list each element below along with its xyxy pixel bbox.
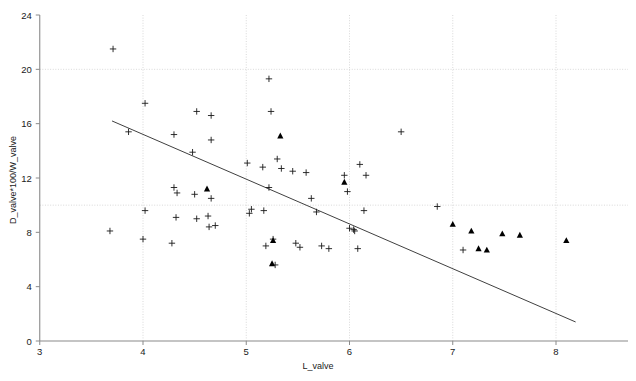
- data-point-cross: [460, 247, 466, 253]
- y-tick-label: 4: [26, 281, 31, 292]
- data-point-triangle: [204, 186, 210, 192]
- data-point-cross: [263, 243, 269, 249]
- data-point-cross: [434, 203, 440, 209]
- axis-ticks: 04812162024345678: [21, 10, 558, 358]
- data-point-triangle: [341, 179, 347, 185]
- data-point-cross: [205, 213, 211, 219]
- data-point-cross: [341, 172, 347, 178]
- data-point-triangle: [563, 237, 569, 243]
- data-point-cross: [140, 236, 146, 242]
- data-point-cross: [169, 240, 175, 246]
- y-tick-label: 20: [21, 64, 32, 75]
- data-point-triangle: [499, 230, 505, 236]
- gridlines: [40, 15, 628, 341]
- data-point-cross: [350, 226, 356, 232]
- data-point-cross: [290, 168, 296, 174]
- data-point-cross: [208, 137, 214, 143]
- data-point-cross: [107, 228, 113, 234]
- data-point-cross: [303, 169, 309, 175]
- data-point-cross: [318, 243, 324, 249]
- y-tick-label: 16: [21, 118, 32, 129]
- y-tick-label: 24: [21, 10, 32, 21]
- data-point-cross: [193, 216, 199, 222]
- data-point-cross: [357, 161, 363, 167]
- trendline: [112, 121, 576, 322]
- x-axis-title: L_valve: [302, 361, 333, 371]
- data-point-cross: [171, 131, 177, 137]
- data-point-cross: [266, 76, 272, 82]
- data-point-triangle: [468, 228, 474, 234]
- y-tick-label: 12: [21, 173, 32, 184]
- x-tick-label: 3: [37, 346, 42, 357]
- data-point-cross: [326, 245, 332, 251]
- data-point-cross: [346, 225, 352, 231]
- axes: [40, 15, 628, 341]
- data-point-cross: [355, 245, 361, 251]
- data-point-triangle: [517, 232, 523, 238]
- data-point-cross: [260, 164, 266, 170]
- data-point-cross: [193, 108, 199, 114]
- data-point-cross: [398, 129, 404, 135]
- data-point-triangle: [270, 237, 276, 243]
- data-point-cross: [361, 207, 367, 213]
- plot-canvas: 04812162024345678 L_valve D_valve*100/W_…: [0, 0, 636, 381]
- data-point-cross: [208, 112, 214, 118]
- y-tick-label: 8: [26, 227, 31, 238]
- data-point-cross: [261, 207, 267, 213]
- data-point-cross: [174, 190, 180, 196]
- data-point-cross: [297, 244, 303, 250]
- data-point-cross: [244, 160, 250, 166]
- data-point-triangle: [475, 245, 481, 251]
- x-tick-label: 6: [347, 346, 352, 357]
- x-tick-label: 8: [553, 346, 558, 357]
- data-points: [107, 46, 570, 268]
- x-tick-label: 5: [244, 346, 249, 357]
- data-point-cross: [212, 222, 218, 228]
- x-tick-label: 7: [450, 346, 455, 357]
- data-point-triangle: [484, 247, 490, 253]
- scatter-plot-figure: 04812162024345678 L_valve D_valve*100/W_…: [0, 0, 636, 381]
- data-point-cross: [293, 240, 299, 246]
- x-tick-label: 4: [140, 346, 145, 357]
- y-tick-label: 0: [26, 336, 31, 347]
- data-point-cross: [206, 224, 212, 230]
- axis-labels: L_valve D_valve*100/W_valve: [8, 136, 334, 371]
- data-point-cross: [171, 184, 177, 190]
- data-point-cross: [208, 195, 214, 201]
- data-point-triangle: [450, 221, 456, 227]
- data-point-cross: [274, 156, 280, 162]
- data-point-cross: [351, 228, 357, 234]
- y-axis-title: D_valve*100/W_valve: [8, 136, 18, 224]
- regression-line: [112, 121, 576, 322]
- data-point-cross: [313, 209, 319, 215]
- data-point-cross: [363, 172, 369, 178]
- data-point-cross: [110, 46, 116, 52]
- data-point-cross: [173, 214, 179, 220]
- data-point-cross: [308, 195, 314, 201]
- data-point-triangle: [269, 260, 275, 266]
- data-point-cross: [191, 191, 197, 197]
- data-point-cross: [278, 165, 284, 171]
- data-point-triangle: [277, 133, 283, 139]
- data-point-cross: [268, 108, 274, 114]
